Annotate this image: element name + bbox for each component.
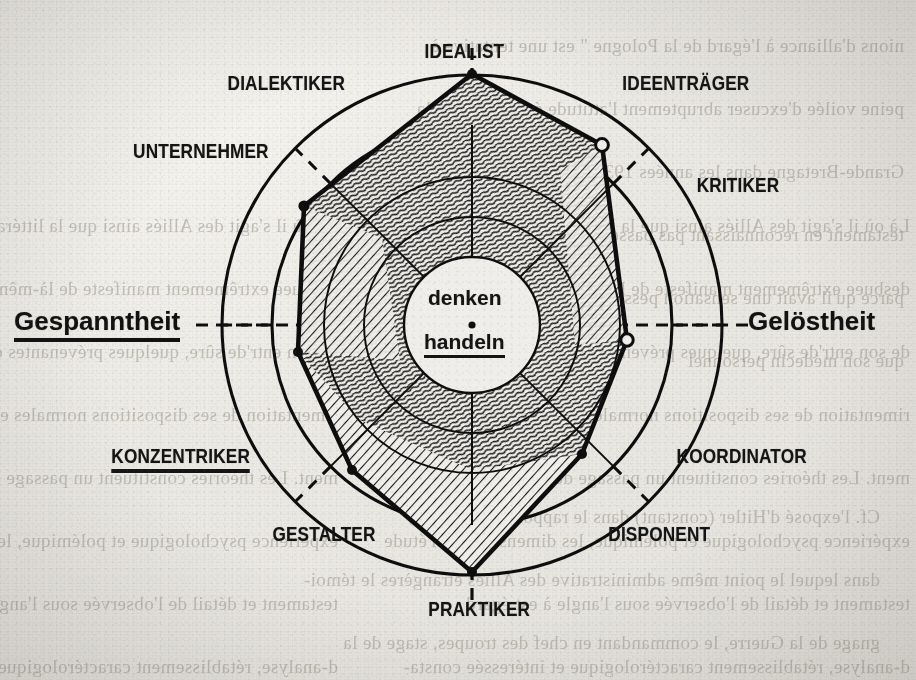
label-konzentriker: KONZENTRIKER: [111, 445, 250, 473]
marker-kritiker: [621, 334, 633, 346]
center-label-handeln: handeln: [424, 330, 505, 358]
label-disponent: DISPONENT: [608, 523, 710, 546]
label-kritiker: KRITIKER: [697, 174, 780, 197]
pole-label-geloestheit: Gelöstheit: [748, 306, 875, 337]
label-idealist: IDEALIST: [424, 40, 504, 63]
center-dot: [468, 321, 475, 328]
marker-gestalter: [347, 465, 357, 475]
label-unternehmer: UNTERNEHMER: [133, 140, 269, 163]
marker-praktiker: [467, 567, 477, 577]
marker-ideentraeger: [596, 139, 609, 152]
label-praktiker: PRAKTIKER: [428, 598, 530, 621]
label-dialektiker: DIALEKTIKER: [228, 72, 346, 95]
pole-label-gespanntheit: Gespanntheit: [14, 306, 180, 342]
marker-unternehmer: [298, 200, 309, 211]
marker-konzentriker: [293, 347, 303, 357]
label-gestalter: GESTALTER: [272, 523, 375, 546]
label-ideentraeger: IDEENTRÄGER: [622, 72, 749, 95]
marker-idealist: [467, 69, 477, 79]
label-koordinator: KOORDINATOR: [677, 445, 807, 468]
center-label-denken: denken: [428, 286, 502, 310]
marker-disponent: [577, 449, 587, 459]
profile-polygon: [280, 55, 650, 595]
